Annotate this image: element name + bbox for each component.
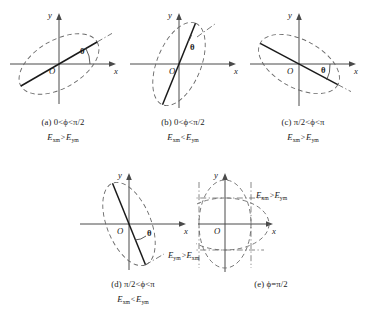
y-axis-label: y (288, 10, 292, 20)
panel-b-amplitude: Exm<Eym (122, 131, 244, 144)
panel-c-amplitude: Exm>Eym (242, 131, 364, 144)
panel-b-svg (122, 4, 244, 116)
panel-c: O x y θ (c) π/2<ϕ<π Exm>Eym (242, 4, 364, 144)
axis-group (130, 13, 236, 108)
theta-arc (135, 236, 146, 240)
y-axis-label: y (168, 10, 172, 20)
panel-e-condition: (e) ϕ=π/2 (254, 279, 287, 289)
axis-group (10, 13, 116, 104)
panel-d-caption: (d) π/2<ϕ<π Exm<Eym (72, 278, 194, 306)
x-axis-label: x (184, 226, 188, 236)
polarization-ellipse-figure: O x y θ (a) 0<ϕ<π/2 Exm>Eym (0, 0, 367, 324)
axis-extension-line (197, 24, 215, 37)
panel-b-caption: (b) 0<ϕ<π/2 Exm<Eym (122, 116, 244, 144)
panel-d-condition: (d) π/2<ϕ<π (111, 279, 154, 289)
axis-extension-line (97, 33, 112, 42)
axis-extension-line (338, 85, 351, 92)
theta-arc (327, 64, 330, 80)
theta-label: θ (190, 42, 195, 52)
origin-label: O (117, 226, 123, 236)
panel-b-diagram: O x y θ (122, 4, 244, 116)
theta-label: θ (147, 228, 152, 238)
panel-c-condition: (c) π/2<ϕ<π (282, 117, 325, 127)
panel-c-svg (242, 4, 364, 116)
panel-a-amplitude: Exm>Eym (2, 131, 124, 144)
x-axis-label: x (354, 66, 358, 76)
panel-a-diagram: O x y θ (2, 4, 124, 116)
panel-e-svg (196, 166, 346, 278)
panel-a-condition: (a) 0<ϕ<π/2 (42, 117, 85, 127)
panel-d: O x y θ (d) π/2<ϕ<π Exm<Eym (72, 166, 194, 306)
panel-a-svg (2, 4, 124, 116)
theta-arc (86, 49, 90, 65)
theta-label: θ (321, 65, 326, 75)
x-axis-label: x (272, 226, 276, 236)
y-axis-label: y (214, 170, 218, 180)
panel-b-condition: (b) 0<ϕ<π/2 (161, 117, 204, 127)
wide-ellipse-amplitude-label: Exm>Eym (256, 190, 287, 201)
x-axis-label: x (114, 66, 118, 76)
panel-a: O x y θ (a) 0<ϕ<π/2 Exm>Eym (2, 4, 124, 144)
panel-c-caption: (c) π/2<ϕ<π Exm>Eym (242, 116, 364, 144)
y-axis-label: y (48, 10, 52, 20)
panel-d-svg (72, 166, 194, 278)
panel-e: O x y Exm>Eym Eym>Exm (e) ϕ=π/2 (196, 166, 318, 291)
panel-a-caption: (a) 0<ϕ<π/2 Exm>Eym (2, 116, 124, 144)
axis-group (250, 13, 356, 106)
origin-label: O (169, 66, 175, 76)
origin-label: O (49, 66, 55, 76)
axis-group (198, 173, 273, 272)
y-axis-label: y (118, 170, 122, 180)
axis-extension-line (146, 254, 165, 265)
panel-d-diagram: O x y θ (72, 166, 194, 278)
origin-label: O (287, 66, 293, 76)
panel-e-diagram: O x y Exm>Eym Eym>Exm (196, 166, 318, 278)
origin-label: O (214, 226, 220, 236)
panel-d-amplitude: Exm<Eym (72, 293, 194, 306)
tall-ellipse-amplitude-label: Eym>Exm (168, 250, 199, 261)
panel-e-caption: (e) ϕ=π/2 (196, 278, 346, 291)
x-axis-label: x (234, 66, 238, 76)
theta-label: θ (80, 46, 85, 56)
panel-b: O x y θ (b) 0<ϕ<π/2 Exm<Eym (122, 4, 244, 144)
panel-c-diagram: O x y θ (242, 4, 364, 116)
